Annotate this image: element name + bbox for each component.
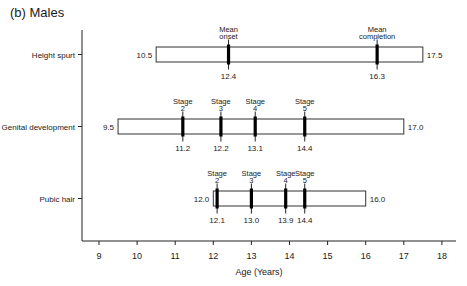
marker-label: 5 xyxy=(303,104,307,113)
marker-value: 11.2 xyxy=(175,144,191,153)
x-tick-label: 11 xyxy=(171,251,180,261)
range-start-label: 9.5 xyxy=(103,123,115,132)
data-rows: Height spurt10.517.5Meanonset12.4Meancom… xyxy=(2,25,443,225)
marker-value: 13.0 xyxy=(244,216,260,225)
row-height-spurt: Height spurt10.517.5Meanonset12.4Meancom… xyxy=(32,25,443,81)
marker-label: 3 xyxy=(219,104,223,113)
marker-label: 4 xyxy=(284,176,288,185)
marker-value: 13.1 xyxy=(247,144,263,153)
axes: 9101112131415161718Age (Years) xyxy=(82,30,456,277)
x-tick-label: 14 xyxy=(284,251,294,261)
range-bar xyxy=(118,119,404,134)
range-bar xyxy=(213,191,365,206)
row-label: Height spurt xyxy=(32,51,76,60)
x-tick-label: 16 xyxy=(361,251,371,261)
x-tick-label: 13 xyxy=(246,251,256,261)
range-end-label: 16.0 xyxy=(370,195,386,204)
marker-label: 3 xyxy=(249,176,253,185)
chart-plot-area: 9101112131415161718Age (Years) Height sp… xyxy=(0,0,467,286)
range-end-label: 17.5 xyxy=(427,51,443,60)
marker-value: 12.2 xyxy=(213,144,229,153)
marker-value: 14.4 xyxy=(297,144,313,153)
marker-label: 4 xyxy=(253,104,257,113)
range-start-label: 12.0 xyxy=(194,195,210,204)
x-tick-label: 18 xyxy=(437,251,447,261)
x-tick-label: 17 xyxy=(399,251,409,261)
x-tick-label: 15 xyxy=(323,251,333,261)
x-tick-label: 9 xyxy=(96,251,101,261)
marker-label: 5 xyxy=(303,176,307,185)
marker-value: 12.4 xyxy=(221,72,237,81)
marker-value: 12.1 xyxy=(209,216,225,225)
marker-label: 2 xyxy=(181,104,185,113)
row-genital-development: Genital development9.517.0Stage211.2Stag… xyxy=(2,97,424,153)
x-tick-label: 10 xyxy=(132,251,142,261)
x-tick-label: 12 xyxy=(208,251,218,261)
row-label: Pubic hair xyxy=(39,195,75,204)
marker-label: 2 xyxy=(215,176,219,185)
range-end-label: 17.0 xyxy=(408,123,424,132)
marker-label: onset xyxy=(219,32,238,41)
marker-label: completion xyxy=(359,32,395,41)
marker-value: 13.9 xyxy=(278,216,294,225)
marker-value: 16.3 xyxy=(369,72,385,81)
marker-value: 14.4 xyxy=(297,216,313,225)
range-start-label: 10.5 xyxy=(137,51,153,60)
row-pubic-hair: Pubic hair12.016.0Stage212.1Stage313.0St… xyxy=(39,169,385,225)
row-label: Genital development xyxy=(2,123,76,132)
x-axis-title: Age (Years) xyxy=(235,267,282,277)
range-bar xyxy=(156,47,423,62)
